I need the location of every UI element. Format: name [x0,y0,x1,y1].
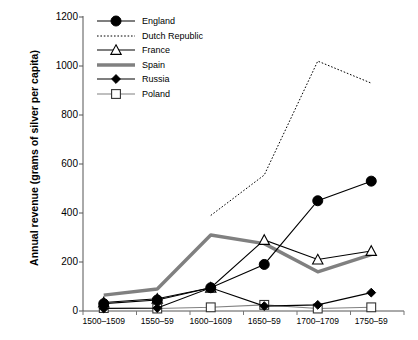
series-line [104,235,372,295]
series-line [104,181,372,304]
data-point-marker [259,235,269,245]
legend-item-russia[interactable]: Russia [96,72,203,87]
series-line [211,61,372,215]
legend-label: Poland [142,89,170,99]
legend-key-icon [96,43,136,57]
data-point-marker [313,196,323,206]
legend-item-poland[interactable]: Poland [96,87,203,102]
legend-item-england[interactable]: England [96,14,203,29]
legend-label: Dutch Republic [142,31,203,41]
series-france [99,235,377,307]
series-line [104,240,372,302]
data-point-marker [366,246,376,256]
legend-key-icon [96,29,136,43]
legend-item-spain[interactable]: Spain [96,58,203,73]
data-point-marker [259,259,269,269]
chart-legend: EnglandDutch RepublicFranceSpainRussiaPo… [96,14,203,101]
legend-key-icon [96,14,136,28]
series-dutch-republic [211,61,372,215]
legend-item-france[interactable]: France [96,43,203,58]
legend-label: France [142,45,170,55]
legend-label: Spain [142,60,165,70]
series-spain [104,235,372,295]
data-point-marker [367,288,376,297]
legend-key-icon [96,72,136,86]
data-point-marker [206,303,215,312]
data-point-marker [112,89,121,98]
legend-key-icon [96,58,136,72]
legend-item-dutch-republic[interactable]: Dutch Republic [96,29,203,44]
legend-label: Russia [142,74,170,84]
data-point-marker [367,303,376,312]
data-point-marker [111,16,121,26]
data-point-marker [112,75,121,84]
legend-key-icon [96,87,136,101]
legend-label: England [142,16,175,26]
series-england [99,176,377,309]
plot-area [0,0,418,340]
data-point-marker [366,176,376,186]
chart-container: Annual revenue (grams of silver per capi… [0,0,418,340]
